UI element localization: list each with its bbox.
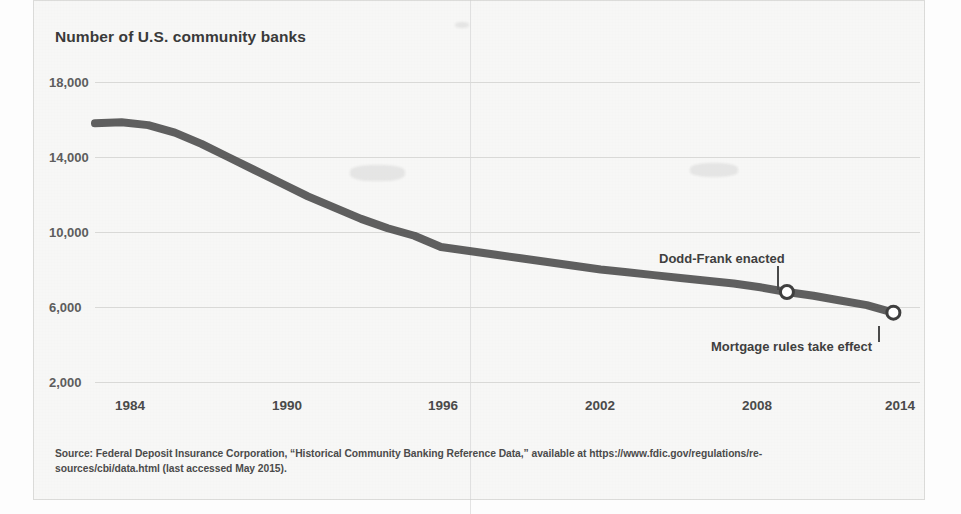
x-axis-tick-2008: 2008 — [742, 398, 772, 413]
annotation-mortgage-rules: Mortgage rules take effect — [711, 339, 872, 354]
x-axis-tick-1990: 1990 — [272, 398, 302, 413]
source-note: Source: Federal Deposit Insurance Corpor… — [55, 446, 917, 476]
series-polyline — [95, 122, 893, 312]
marker-mortgage-rules-take-effect — [887, 306, 900, 319]
x-axis-tick-2014: 2014 — [885, 398, 915, 413]
source-note-line-2: sources/cbi/data.html (last accessed May… — [55, 461, 917, 476]
x-axis-tick-2002: 2002 — [585, 398, 615, 413]
leader-line-mortgage-rules — [878, 326, 880, 342]
figure-page: Number of U.S. community banks 18,000 14… — [0, 0, 961, 514]
chart-title: Number of U.S. community banks — [55, 28, 306, 46]
x-axis-tick-1984: 1984 — [115, 398, 145, 413]
x-axis-tick-1996: 1996 — [428, 398, 458, 413]
leader-line-dodd-frank — [777, 266, 779, 290]
marker-dodd-frank-enacted — [780, 286, 793, 299]
annotation-dodd-frank: Dodd-Frank enacted — [659, 251, 785, 266]
source-note-line-1: Source: Federal Deposit Insurance Corpor… — [55, 446, 917, 461]
